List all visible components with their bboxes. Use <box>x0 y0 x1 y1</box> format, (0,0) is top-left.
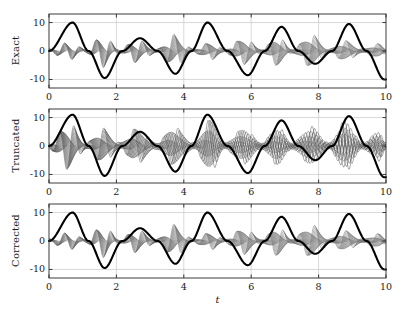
x-tick-label: 8 <box>304 91 334 102</box>
x-tick-label: 10 <box>371 186 401 197</box>
x-tick-label: 6 <box>236 91 266 102</box>
panel-label-truncated: Truncated <box>10 109 21 183</box>
x-tick-label: 0 <box>34 91 64 102</box>
gridlines <box>49 14 386 88</box>
x-tick-label: 10 <box>371 281 401 292</box>
x-tick-label: 8 <box>304 186 334 197</box>
panel-plot-area <box>0 0 404 309</box>
reference-curve <box>49 115 386 178</box>
x-tick-label: 0 <box>34 186 64 197</box>
tick-marks <box>49 204 386 278</box>
x-tick-label: 4 <box>169 186 199 197</box>
figure-canvas: 100-10Exact0246810100-10Truncated0246810… <box>0 0 404 309</box>
trajectory-bundle <box>49 120 386 170</box>
reference-curve <box>49 23 386 80</box>
plot-panel-corrected <box>0 0 404 309</box>
x-tick-label: 8 <box>304 281 334 292</box>
reference-curve <box>49 213 386 270</box>
x-tick-label: 2 <box>101 186 131 197</box>
panel-plot-area <box>0 0 404 309</box>
x-tick-label: 2 <box>101 91 131 102</box>
x-axis-label: t <box>198 294 238 305</box>
trajectory-bundle <box>49 34 386 67</box>
x-tick-label: 0 <box>34 281 64 292</box>
x-tick-label: 2 <box>101 281 131 292</box>
gridlines <box>49 109 386 183</box>
panel-plot-area <box>0 0 404 309</box>
plot-panel-truncated <box>0 0 404 309</box>
x-tick-label: 4 <box>169 281 199 292</box>
plot-panel-exact <box>0 0 404 309</box>
tick-marks <box>49 14 386 88</box>
trajectory-bundle <box>49 224 386 257</box>
x-tick-label: 10 <box>371 91 401 102</box>
x-tick-label: 6 <box>236 186 266 197</box>
axis-frame <box>49 109 386 183</box>
tick-marks <box>49 109 386 183</box>
axis-frame <box>49 14 386 88</box>
panel-label-corrected: Corrected <box>10 204 21 278</box>
x-tick-label: 6 <box>236 281 266 292</box>
panel-label-exact: Exact <box>10 14 21 88</box>
x-tick-label: 4 <box>169 91 199 102</box>
gridlines <box>49 204 386 278</box>
axis-frame <box>49 204 386 278</box>
